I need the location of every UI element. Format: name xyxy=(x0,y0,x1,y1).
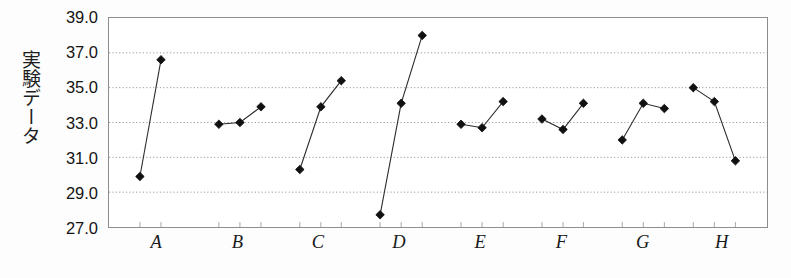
y-axis-tick-label: 31.0 xyxy=(66,148,98,167)
x-axis-category-label: E xyxy=(475,232,486,253)
y-axis-tick-label: 33.0 xyxy=(66,113,98,132)
y-axis-tick-labels: 39.037.035.033.031.029.027.0 xyxy=(46,0,102,278)
x-axis-category-label: A xyxy=(151,232,162,253)
data-point-marker xyxy=(418,31,427,40)
x-axis-tick-labels: ABCDEFGH xyxy=(108,232,768,266)
data-point-marker xyxy=(397,99,406,108)
chart-figure: 実験データ 39.037.035.033.031.029.027.0 ABCDE… xyxy=(0,0,791,278)
data-point-marker xyxy=(538,115,547,124)
x-axis-category-label: C xyxy=(312,232,324,253)
data-point-marker xyxy=(376,211,385,220)
plot-area xyxy=(108,17,768,228)
x-axis-category-label: D xyxy=(392,232,405,253)
x-axis-category-label: F xyxy=(556,232,567,253)
x-axis-category-label: G xyxy=(636,232,649,253)
data-point-marker xyxy=(215,120,224,129)
series-line xyxy=(622,103,664,140)
data-point-marker xyxy=(689,83,698,92)
data-point-marker xyxy=(660,104,669,113)
data-point-marker xyxy=(731,157,740,166)
data-point-marker xyxy=(136,172,145,181)
y-axis-tick-label: 35.0 xyxy=(66,78,98,97)
series-line xyxy=(300,81,341,170)
y-axis-tick-label: 39.0 xyxy=(66,8,98,27)
data-point-marker xyxy=(618,136,627,145)
y-axis-title: 実験データ xyxy=(14,50,40,145)
data-series-layer xyxy=(109,18,767,227)
data-point-marker xyxy=(296,165,305,174)
data-point-marker xyxy=(639,99,648,108)
x-axis-category-label: H xyxy=(715,232,728,253)
x-axis-category-label: B xyxy=(232,232,243,253)
y-axis-tick-label: 27.0 xyxy=(66,219,98,238)
data-point-marker xyxy=(457,120,466,129)
y-axis-tick-label: 37.0 xyxy=(66,43,98,62)
data-point-marker xyxy=(257,103,266,112)
data-point-marker xyxy=(710,97,719,106)
data-point-marker xyxy=(236,118,245,127)
data-point-marker xyxy=(157,56,166,65)
series-line xyxy=(380,35,422,214)
series-line xyxy=(140,60,161,177)
y-axis-tick-label: 29.0 xyxy=(66,183,98,202)
